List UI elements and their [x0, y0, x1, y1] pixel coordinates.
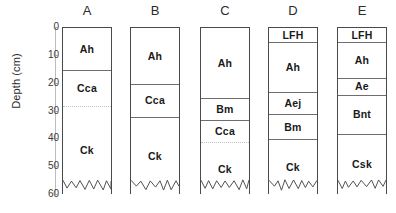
horizon-label: Cca	[131, 94, 179, 106]
column-body: LFHAhAejBmCk	[268, 27, 318, 194]
y-tick-mark	[55, 194, 59, 195]
horizon-label: Cca	[201, 125, 249, 137]
y-tick-mark	[55, 166, 59, 167]
horizon-label: Csk	[338, 158, 386, 170]
wavy-lower-boundary	[131, 178, 179, 195]
column-header-d: D	[268, 3, 318, 18]
horizon-label: Ck	[201, 163, 249, 175]
horizon-ae: Ae	[338, 78, 386, 95]
horizon-bnt: Bnt	[338, 95, 386, 134]
horizon-cca: Cca	[131, 84, 179, 117]
horizon-ah: Ah	[131, 28, 179, 84]
horizon-label: Ck	[63, 144, 111, 156]
horizon-ah: Ah	[201, 28, 249, 98]
wavy-lower-boundary	[269, 178, 317, 195]
horizon-label: LFH	[269, 29, 317, 41]
horizon-label: Bnt	[338, 108, 386, 120]
horizon-ah: Ah	[63, 28, 111, 70]
y-tick-mark	[55, 83, 59, 84]
horizon-label: Ah	[269, 61, 317, 73]
y-tick-mark	[55, 111, 59, 112]
y-tick-mark	[55, 55, 59, 56]
horizon-bm: Bm	[201, 98, 249, 120]
horizon-cca: Cca	[201, 120, 249, 142]
horizon-label: Ah	[63, 43, 111, 55]
wavy-lower-boundary	[201, 178, 249, 195]
horizon-label: Ck	[269, 161, 317, 173]
column-body: AhCcaCk	[62, 27, 112, 194]
horizon-label: Ah	[201, 57, 249, 69]
horizon-label: Cca	[63, 82, 111, 94]
y-axis-label: Depth (cm)	[10, 41, 22, 121]
horizon-bm: Bm	[269, 114, 317, 139]
horizon-label: Ah	[131, 50, 179, 62]
horizon-label: Ae	[338, 80, 386, 92]
horizon-label: Bm	[201, 103, 249, 115]
y-tick-mark	[55, 27, 59, 28]
column-header-e: E	[337, 3, 387, 18]
horizon-label: Aej	[269, 97, 317, 109]
horizon-label: Ck	[131, 150, 179, 162]
horizon-label: Ah	[338, 54, 386, 66]
soil-profile-figure: Depth (cm) 0102030405060 AAhCcaCkBAhCcaC…	[0, 0, 396, 213]
column-body: AhCcaCk	[130, 27, 180, 194]
column-body: LFHAhAeBntCsk	[337, 27, 387, 194]
column-body: AhBmCcaCk	[200, 27, 250, 194]
wavy-lower-boundary	[63, 178, 111, 195]
horizon-lfh: LFH	[269, 28, 317, 42]
column-header-b: B	[130, 3, 180, 18]
horizon-cca: Cca	[63, 70, 111, 106]
horizon-label: LFH	[338, 29, 386, 41]
horizon-ah: Ah	[338, 42, 386, 78]
horizon-aej: Aej	[269, 92, 317, 114]
horizon-lfh: LFH	[338, 28, 386, 42]
y-tick-mark	[55, 138, 59, 139]
column-header-c: C	[200, 3, 250, 18]
horizon-label: Bm	[269, 121, 317, 133]
column-header-a: A	[62, 3, 112, 18]
wavy-lower-boundary	[338, 178, 386, 195]
horizon-ah: Ah	[269, 42, 317, 92]
